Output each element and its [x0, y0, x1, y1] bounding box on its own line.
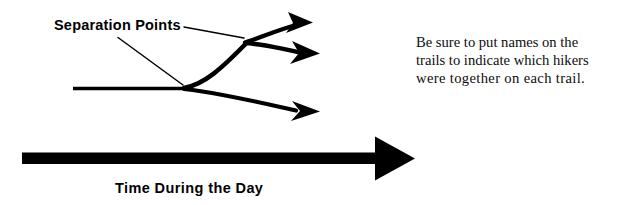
arrowhead-upper-a-icon [286, 12, 313, 33]
leader-line-to-fork-1 [118, 38, 183, 86]
separation-points-label: Separation Points [54, 17, 181, 33]
instruction-note-line-3: were together on each trail. [416, 69, 611, 87]
leader-line-to-fork-2 [184, 27, 244, 38]
time-axis-label: Time During the Day [115, 180, 263, 196]
trail-diagram-figure: Separation Points Time During the Day Be… [0, 0, 617, 205]
trail-branch-lower [184, 89, 296, 111]
instruction-note: Be sure to put names on the trails to in… [416, 33, 611, 88]
trail-segment-to-second-fork [184, 43, 247, 89]
instruction-note-line-2: trails to indicate which hikers [416, 51, 611, 69]
time-axis-shaft [22, 153, 378, 165]
instruction-note-line-1: Be sure to put names on the [416, 33, 611, 51]
trail-branch-upper-a [245, 25, 298, 43]
time-axis-arrowhead-icon [375, 137, 415, 181]
trail-branch-upper-b [245, 43, 302, 53]
